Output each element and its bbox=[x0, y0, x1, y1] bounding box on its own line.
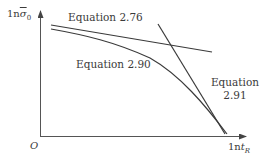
label-equation-2-76: Equation 2.76 bbox=[68, 11, 143, 23]
y-axis-label: 1nσ0 bbox=[7, 8, 31, 22]
label-equation-2-90: Equation 2.90 bbox=[76, 58, 151, 70]
x-axis-label: 1ntR bbox=[228, 141, 250, 155]
y-axis-label-subscript: 0 bbox=[27, 14, 31, 22]
diagram: 1nσ0 O 1ntR Equation 2.76 Equation 2.90 … bbox=[0, 0, 263, 160]
origin-label: O bbox=[30, 140, 38, 151]
label-equation-2-91: Equation 2.91 bbox=[210, 76, 260, 102]
x-axis-label-subscript: R bbox=[245, 147, 250, 155]
curve-equation-2-76 bbox=[51, 25, 212, 52]
label-equation-2-91-line1: Equation bbox=[210, 76, 260, 89]
y-axis-label-prefix: 1n bbox=[7, 8, 20, 19]
x-axis-label-prefix: 1n bbox=[228, 141, 241, 152]
curve-equation-2-90 bbox=[51, 29, 227, 134]
y-axis-label-symbol: σ bbox=[20, 8, 27, 19]
label-equation-2-91-line2: 2.91 bbox=[210, 89, 260, 102]
